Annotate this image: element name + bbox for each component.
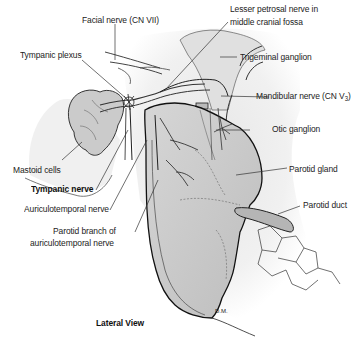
label-lesser-petrosal-line1: Lesser petrosal nerve in (230, 4, 318, 15)
anatomy-diagram: D.M. Facial nerve (CN VII) Lesser petros… (0, 0, 363, 339)
label-otic-ganglion: Otic ganglion (272, 124, 320, 135)
label-auriculotemporal-nerve: Auriculotemporal nerve (24, 204, 109, 215)
label-parotid-branch-line1: Parotid branch of (53, 226, 116, 237)
signature: D.M. (215, 308, 228, 314)
label-lesser-petrosal-line2: middle cranial fossa (230, 17, 303, 28)
label-parotid-duct: Parotid duct (303, 200, 347, 211)
label-trigeminal-ganglion: Trigeminal ganglion (240, 52, 312, 63)
label-mastoid-cells: Mastoid cells (13, 165, 61, 176)
label-tympanic-plexus: Tympanic plexus (20, 50, 82, 61)
label-parotid-gland: Parotid gland (289, 164, 338, 175)
label-mandibular-nerve: Mandibular nerve (CN V3) (256, 91, 351, 104)
view-title: Lateral View (96, 318, 144, 329)
label-parotid-branch-line2: auriculotemporal nerve (30, 238, 114, 249)
label-tympanic-nerve: Tympanic nerve (31, 184, 93, 195)
label-facial-nerve: Facial nerve (CN VII) (82, 15, 159, 26)
